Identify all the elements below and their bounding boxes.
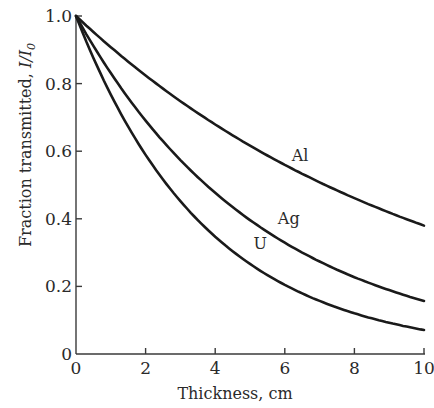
y-axis-title-subscript: 0 [25,43,38,50]
x-tick-label: 2 [140,358,151,378]
y-axis-title-italic: I/I [16,49,35,69]
x-axis-title: Thickness, cm [177,384,292,403]
y-tick-label: 0.2 [45,276,72,296]
curves [76,16,424,330]
curve-label-ag: Ag [277,209,300,228]
curve-ag [76,16,424,301]
x-tick-label: 6 [279,358,290,378]
x-tick-label: 0 [71,358,82,378]
curve-label-u: U [253,234,266,253]
x-tick-label: 4 [210,358,221,378]
y-axis-title: Fraction transmitted, I/I0 [16,43,38,247]
y-tick-label: 0.6 [45,141,72,161]
y-axis-title-prefix: Fraction transmitted, [16,68,35,247]
x-tick-label: 10 [413,358,434,378]
attenuation-chart: 024681000.20.40.60.81.0 AlAgU Thickness,… [0,0,434,408]
curve-label-al: Al [291,146,309,165]
curve-al [76,16,424,226]
x-tick-label: 8 [349,358,360,378]
y-tick-label: 1.0 [45,6,72,26]
y-tick-label: 0 [61,344,72,364]
y-tick-label: 0.4 [45,209,72,229]
y-tick-label: 0.8 [45,74,72,94]
